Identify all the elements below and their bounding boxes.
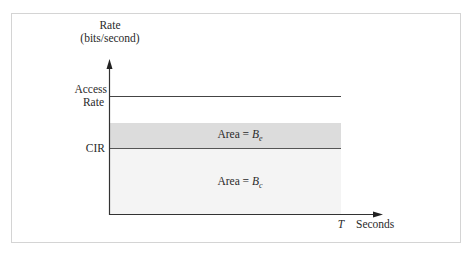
be-subscript: e (259, 134, 263, 143)
be-area-text: Area = (217, 128, 252, 140)
bc-area-text: Area = (217, 175, 252, 187)
x-axis-label: Seconds (356, 218, 416, 231)
access-rate-label-line2: Rate (55, 96, 104, 109)
cir-label: CIR (60, 142, 105, 155)
bc-area-label: Area = Bc (190, 175, 290, 192)
access-rate-label-line1: Access (55, 83, 107, 96)
bc-symbol: B (252, 175, 259, 187)
x-axis-mark-t: T (335, 218, 347, 231)
be-symbol: B (252, 128, 259, 140)
y-axis-label-rate: Rate (80, 19, 140, 32)
bc-subscript: c (259, 181, 263, 190)
be-area-label: Area = Be (190, 128, 290, 145)
x-axis-arrow-icon (373, 212, 383, 218)
y-axis-label-units: (bits/second) (70, 32, 150, 45)
y-axis-arrow-icon (107, 59, 113, 69)
